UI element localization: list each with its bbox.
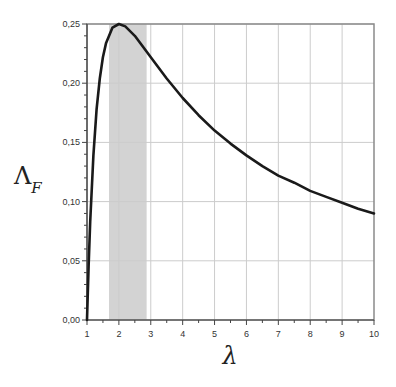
x-tick-label: 6 — [244, 329, 249, 339]
y-axis-title-subscript: F — [30, 179, 42, 197]
y-tick-label: 0,25 — [62, 19, 80, 29]
x-tick-label: 2 — [116, 329, 121, 339]
y-axis-title: ΛF — [13, 162, 42, 197]
x-axis-title: λ — [221, 342, 237, 370]
y-tick-label: 0,15 — [62, 137, 80, 147]
x-tick-label: 7 — [276, 329, 281, 339]
x-tick-label: 3 — [148, 329, 153, 339]
y-tick-label: 0,00 — [62, 315, 80, 325]
x-tick-label: 5 — [212, 329, 217, 339]
y-tick-label: 0,20 — [62, 78, 80, 88]
shaded-band — [109, 24, 147, 320]
x-axis: 12345678910 — [84, 320, 379, 339]
x-tick-label: 1 — [84, 329, 89, 339]
x-tick-label: 9 — [340, 329, 345, 339]
x-tick-label: 10 — [369, 329, 379, 339]
highlight-band — [109, 24, 147, 320]
y-axis: 0,000,050,100,150,200,25 — [62, 19, 87, 325]
y-tick-label: 0,10 — [62, 197, 80, 207]
x-tick-label: 4 — [180, 329, 185, 339]
y-tick-label: 0,05 — [62, 256, 80, 266]
x-tick-label: 8 — [308, 329, 313, 339]
line-chart: 0,000,050,100,150,200,25 12345678910 ΛF … — [0, 0, 396, 387]
